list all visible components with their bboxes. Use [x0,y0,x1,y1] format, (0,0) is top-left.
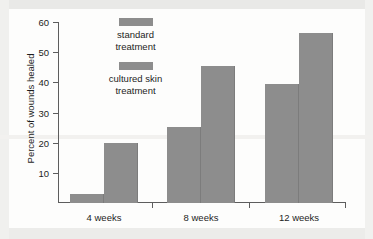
bar-chart: Percent of wounds healed 60 50 40 30 20 … [0,0,373,239]
y-tick-60 [53,22,58,23]
legend-swatch-standard [119,18,153,26]
chart-legend: standard treatment cultured skin treatme… [88,18,183,106]
y-tick-label-20: 20 [15,139,49,148]
bar-cultured-12-weeks [299,33,333,203]
legend-entry-cultured: cultured skin treatment [88,62,183,96]
legend-label-standard-line1: standard [88,29,183,41]
y-tick-50 [53,52,58,53]
bar-standard-4-weeks [70,194,104,203]
bar-cultured-4-weeks [104,143,138,203]
legend-label-cultured-line1: cultured skin [88,73,183,85]
y-tick-10 [53,173,58,174]
x-tick-separator-1 [152,203,153,208]
y-axis-line [58,22,59,203]
bar-cultured-8-weeks [201,66,235,203]
legend-label-cultured-line2: treatment [88,85,183,97]
y-tick-40 [53,82,58,83]
bar-standard-8-weeks [167,127,201,203]
legend-swatch-cultured [119,62,153,70]
y-tick-label-10: 10 [15,169,49,178]
y-tick-30 [53,113,58,114]
y-tick-label-40: 40 [15,78,49,87]
x-tick-separator-3 [345,203,346,208]
bar-standard-12-weeks [265,84,299,203]
y-tick-20 [53,143,58,144]
x-tick-label-4-weeks: 4 weeks [64,212,144,223]
legend-label-standard-line2: treatment [88,41,183,53]
y-tick-label-30: 30 [15,109,49,118]
legend-entry-standard: standard treatment [88,18,183,52]
y-tick-label-50: 50 [15,48,49,57]
x-tick-label-12-weeks: 12 weeks [259,212,339,223]
y-tick-label-60: 60 [15,18,49,27]
chart-page: Percent of wounds healed 60 50 40 30 20 … [0,0,373,239]
x-tick-label-8-weeks: 8 weeks [161,212,241,223]
x-tick-separator-2 [249,203,250,208]
